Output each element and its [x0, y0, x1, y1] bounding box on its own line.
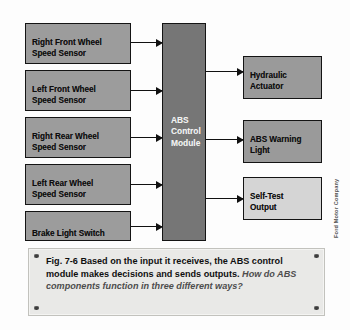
abs-control-module: ABS Control Module	[162, 23, 206, 241]
figure-container: Right Front Wheel Speed Sensor Left Fron…	[0, 0, 350, 330]
image-credit: Ford Motor Company	[333, 179, 339, 238]
input-node-left-front-wheel-speed-sensor: Left Front Wheel Speed Sensor	[25, 70, 131, 111]
screw-icon-bottom-left	[34, 306, 39, 310]
input-node-right-front-wheel-speed-sensor: Right Front Wheel Speed Sensor	[25, 23, 131, 64]
input-node-brake-light-switch: Brake Light Switch	[25, 211, 131, 241]
arrow-module-to-abs-warning-light	[206, 139, 243, 140]
output-node-label: Hydraulic Actuator	[250, 71, 287, 90]
arrow-module-to-self-test-output	[206, 198, 243, 199]
output-node-abs-warning-light: ABS Warning Light	[243, 120, 322, 163]
arrow-left-rear-to-module	[131, 184, 162, 185]
input-node-label: Right Rear Wheel Speed Sensor	[32, 132, 99, 151]
screw-icon-bottom-right	[314, 306, 319, 310]
output-node-label: Self-Test Output	[250, 192, 284, 211]
figure-caption-text: Fig. 7-6 Based on the input it receives,…	[46, 255, 306, 293]
output-node-self-test-output: Self-Test Output	[243, 177, 322, 220]
screw-icon-top-right	[314, 254, 319, 258]
screw-icon-top-left	[34, 254, 39, 258]
input-node-left-rear-wheel-speed-sensor: Left Rear Wheel Speed Sensor	[25, 164, 131, 205]
output-node-hydraulic-actuator: Hydraulic Actuator	[243, 56, 322, 99]
input-node-label: Left Rear Wheel Speed Sensor	[32, 179, 93, 198]
figure-number: Fig. 7-6	[46, 256, 78, 266]
arrow-module-to-hydraulic-actuator	[206, 71, 243, 72]
input-node-right-rear-wheel-speed-sensor: Right Rear Wheel Speed Sensor	[25, 117, 131, 158]
input-node-label: Brake Light Switch	[32, 229, 105, 238]
arrow-brake-light-to-module	[131, 226, 162, 227]
input-node-label: Left Front Wheel Speed Sensor	[32, 85, 96, 104]
arrow-right-rear-to-module	[131, 137, 162, 138]
arrow-left-front-to-module	[131, 90, 162, 91]
output-node-label: ABS Warning Light	[250, 135, 301, 154]
abs-control-module-label: ABS Control Module	[171, 115, 201, 149]
figure-caption-panel: Fig. 7-6 Based on the input it receives,…	[28, 248, 325, 316]
input-node-label: Right Front Wheel Speed Sensor	[32, 38, 102, 57]
arrow-right-front-to-module	[131, 42, 162, 43]
